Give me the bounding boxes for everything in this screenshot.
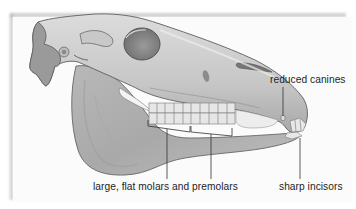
canine-tooth: [281, 115, 285, 121]
horse-skull-illustration: [0, 0, 356, 209]
orbit: [124, 28, 160, 60]
molar-teeth: [149, 103, 235, 124]
label-molars-premolars: large, flat molars and premolars: [93, 181, 238, 192]
label-sharp-incisors: sharp incisors: [279, 181, 343, 192]
label-reduced-canines: reduced canines: [270, 74, 346, 85]
